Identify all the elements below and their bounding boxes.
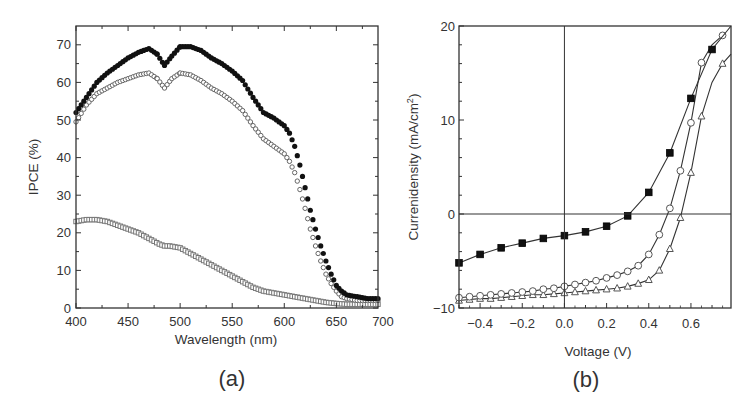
panel-a-y-axis-label: IPCE (%) xyxy=(26,139,41,195)
x-tick-label: 600 xyxy=(273,314,295,329)
open-circle-marker xyxy=(519,289,526,296)
filled-circle-marker xyxy=(289,137,294,142)
panel-a-x-axis-label: Wavelength (nm) xyxy=(175,332,277,347)
filled-circle-marker xyxy=(300,174,305,179)
open-circle-marker xyxy=(635,262,642,269)
y-tick-label: −10 xyxy=(433,301,455,316)
series-open-triangles xyxy=(456,54,731,303)
panel-b-y-axis-label: Currenidensity (mA/cm2) xyxy=(405,94,421,241)
open-circle-marker xyxy=(698,59,705,66)
filled-square-marker xyxy=(519,240,526,247)
filled-circle-marker xyxy=(321,251,326,256)
open-circle-marker xyxy=(666,205,673,212)
x-tick-label: 500 xyxy=(169,314,191,329)
series-open-squares xyxy=(74,217,380,306)
open-circle-marker xyxy=(324,272,328,276)
open-circle-marker xyxy=(82,107,86,111)
filled-circle-marker xyxy=(310,217,315,222)
filled-square-marker xyxy=(582,229,589,236)
open-circle-marker xyxy=(326,277,330,281)
open-circle-marker xyxy=(79,111,83,115)
open-circle-marker xyxy=(306,217,310,221)
open-circle-marker xyxy=(540,286,547,293)
series-filled-squares xyxy=(456,26,731,266)
open-circle-marker xyxy=(298,187,302,191)
filled-square-marker xyxy=(498,245,505,252)
x-tick-label: 0.6 xyxy=(682,316,700,331)
open-circle-marker xyxy=(593,277,600,284)
open-circle-marker xyxy=(603,275,610,282)
panel-b-y-label-main: Currenidensity (mA/cm xyxy=(406,103,421,240)
open-circle-marker xyxy=(287,159,291,163)
y-tick-label: 0 xyxy=(64,301,71,316)
open-circle-marker xyxy=(508,290,515,297)
open-triangle-marker xyxy=(677,214,684,220)
x-tick-label: 650 xyxy=(325,314,347,329)
panel-a-caption: (a) xyxy=(219,366,246,391)
figure: 400450500550600650700010203040506070 Wav… xyxy=(0,0,755,414)
y-tick-label: 40 xyxy=(57,150,71,165)
x-tick-label: −0.2 xyxy=(509,316,535,331)
x-tick-label: 700 xyxy=(372,314,394,329)
open-circle-marker xyxy=(308,227,312,231)
figure-canvas: 400450500550600650700010203040506070 Wav… xyxy=(0,0,755,414)
open-circle-marker xyxy=(656,231,663,238)
filled-circle-marker xyxy=(326,265,331,270)
open-circle-marker xyxy=(321,265,325,269)
open-circle-marker xyxy=(316,251,320,255)
y-tick-label: 10 xyxy=(57,263,71,278)
x-tick-label: 550 xyxy=(221,314,243,329)
open-circle-marker xyxy=(295,179,299,183)
series-open-circles xyxy=(456,32,726,301)
panel-b-x-axis-label: Voltage (V) xyxy=(565,344,632,359)
filled-circle-marker xyxy=(318,243,323,248)
y-tick-label: 20 xyxy=(57,225,71,240)
series-line xyxy=(459,54,731,300)
open-circle-marker xyxy=(582,279,589,286)
y-tick-label: 70 xyxy=(57,37,71,52)
open-circle-marker xyxy=(292,170,296,174)
y-tick-label: 10 xyxy=(441,113,455,128)
x-tick-label: 450 xyxy=(117,314,139,329)
open-circle-marker xyxy=(290,165,294,169)
open-circle-marker xyxy=(311,235,315,239)
y-tick-label: 0 xyxy=(448,207,455,222)
open-circle-marker xyxy=(688,119,695,126)
open-circle-marker xyxy=(303,206,307,210)
open-circle-marker xyxy=(498,291,505,298)
open-circle-marker xyxy=(487,291,494,298)
y-tick-label: 30 xyxy=(57,188,71,203)
filled-circle-marker xyxy=(295,153,300,158)
y-tick-label: 60 xyxy=(57,75,71,90)
open-circle-marker xyxy=(313,244,317,248)
x-tick-label: 400 xyxy=(65,314,87,329)
panel-b-data-series xyxy=(456,26,731,303)
series-line xyxy=(459,26,731,263)
x-tick-label: 0.2 xyxy=(598,316,616,331)
filled-circle-marker xyxy=(303,185,308,190)
filled-square-marker xyxy=(645,189,652,196)
filled-square-marker xyxy=(603,223,610,230)
open-circle-marker xyxy=(645,251,652,258)
open-circle-marker xyxy=(677,167,684,174)
panel-b-jv-chart: −0.4−0.20.00.20.40.6−1001020 Voltage (V)… xyxy=(405,19,731,392)
open-circle-marker xyxy=(572,281,579,288)
open-circle-marker xyxy=(529,288,536,295)
filled-square-marker xyxy=(688,95,695,102)
series-line xyxy=(459,35,723,297)
open-circle-marker xyxy=(319,259,323,263)
x-tick-label: −0.4 xyxy=(467,316,493,331)
open-circle-marker xyxy=(466,293,473,300)
filled-circle-marker xyxy=(313,226,318,231)
panel-b-plot-frame xyxy=(459,26,731,308)
open-triangle-marker xyxy=(656,267,663,273)
open-circle-marker xyxy=(477,292,484,299)
filled-square-marker xyxy=(540,235,547,242)
filled-circle-marker xyxy=(305,196,310,201)
filled-square-marker xyxy=(667,150,674,157)
filled-circle-marker xyxy=(323,258,328,263)
y-tick-label: 50 xyxy=(57,113,71,128)
filled-circle-marker xyxy=(297,163,302,168)
open-circle-marker xyxy=(624,268,631,275)
x-tick-label: 0.0 xyxy=(555,316,573,331)
